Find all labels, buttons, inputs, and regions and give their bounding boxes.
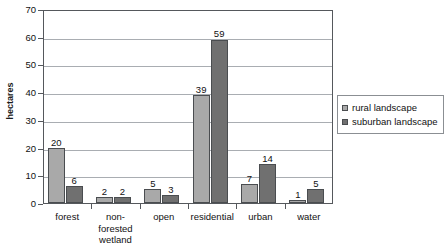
x-tick-mark <box>285 204 286 209</box>
bar-value-label: 6 <box>60 176 89 186</box>
legend-label-suburban: suburban landscape <box>352 117 438 127</box>
legend-item-suburban[interactable]: suburban landscape <box>342 115 440 128</box>
bar-suburban <box>307 189 324 203</box>
y-tick-label: 70 <box>8 5 36 15</box>
gridline <box>44 66 332 67</box>
bar-rural <box>48 148 65 203</box>
y-tick-label: 10 <box>8 171 36 181</box>
legend-swatch-suburban-icon <box>342 119 348 125</box>
bar-suburban <box>259 164 276 203</box>
y-tick-label: 40 <box>8 88 36 98</box>
x-category-label: water <box>285 211 333 223</box>
bar-value-label: 3 <box>156 185 185 195</box>
x-tick-mark <box>140 204 141 209</box>
bar-value-label: 2 <box>108 187 137 197</box>
y-tick-label: 60 <box>8 33 36 43</box>
gridline <box>44 39 332 40</box>
gridline <box>44 122 332 123</box>
bar-suburban <box>114 197 131 203</box>
y-tick-label: 20 <box>8 144 36 154</box>
bar-suburban <box>211 40 228 204</box>
y-tick-label: 30 <box>8 116 36 126</box>
bar-value-label: 20 <box>42 138 71 148</box>
y-tick-mark <box>38 204 43 205</box>
bar-rural <box>241 184 258 203</box>
x-category-label: non- forested wetland <box>91 211 139 246</box>
x-category-label: forest <box>43 211 91 223</box>
legend-item-rural[interactable]: rural landscape <box>342 101 440 114</box>
y-tick-label: 50 <box>8 60 36 70</box>
y-tick-label: 0 <box>8 199 36 209</box>
bar-suburban <box>162 195 179 203</box>
bar-suburban <box>66 186 83 203</box>
gridline <box>44 150 332 151</box>
x-category-label: open <box>140 211 188 223</box>
bar-rural <box>289 200 306 203</box>
plot-area: 2062253395971415 <box>43 10 333 204</box>
legend-label-rural: rural landscape <box>352 103 417 113</box>
chart-legend: rural landscape suburban landscape <box>337 95 444 134</box>
x-category-label: urban <box>236 211 284 223</box>
legend-swatch-rural-icon <box>342 105 348 111</box>
bar-value-label: 59 <box>205 29 234 39</box>
bar-value-label: 14 <box>253 154 282 164</box>
bar-rural <box>96 197 113 203</box>
x-tick-mark <box>91 204 92 209</box>
bar-rural <box>193 95 210 203</box>
x-category-label: residential <box>188 211 236 223</box>
bar-value-label: 5 <box>301 179 330 189</box>
x-tick-mark <box>188 204 189 209</box>
bar-chart: hectares 706050403020100 206225339597141… <box>0 0 445 247</box>
x-tick-mark <box>236 204 237 209</box>
